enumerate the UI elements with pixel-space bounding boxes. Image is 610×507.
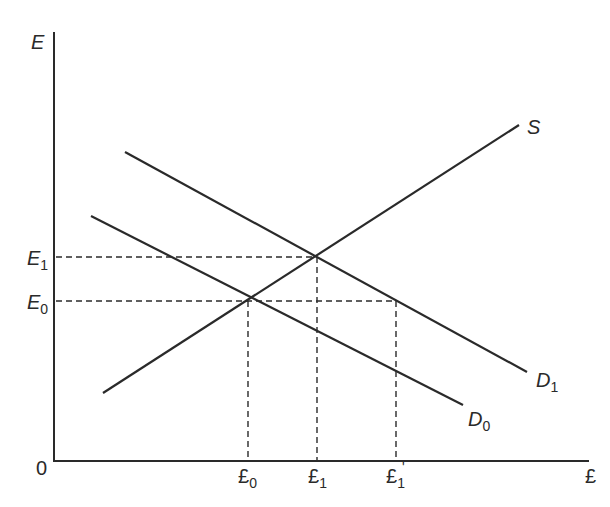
d1-label: D1 <box>536 370 558 390</box>
q1p-label-sub: 1 <box>397 475 405 491</box>
supply-curve <box>103 125 519 393</box>
q0-tick-label: £0 <box>238 466 257 486</box>
supply-label: S <box>527 117 540 137</box>
origin-label: 0 <box>36 458 47 478</box>
q1-label-main: £ <box>308 465 319 487</box>
supply-demand-diagram: E £ 0 S D1 D0 E1 E0 £0 £1 £1' <box>0 0 610 507</box>
q1-prime-tick-label: £1' <box>386 466 405 486</box>
e0-tick-label: E0 <box>27 292 48 312</box>
e1-tick-label: E1 <box>27 248 48 268</box>
x-axis-label: £ <box>585 466 596 486</box>
q1-tick-label: £1 <box>308 466 327 486</box>
e0-label-sub: 0 <box>40 301 48 317</box>
d1-label-sub: 1 <box>550 379 558 395</box>
e1-label-sub: 1 <box>40 257 48 273</box>
q1-label-sub: 1 <box>319 475 327 491</box>
q0-label-sub: 0 <box>249 475 257 491</box>
d0-label: D0 <box>468 409 490 429</box>
q1p-label-prime: ' <box>402 460 405 474</box>
diagram-canvas <box>0 0 610 507</box>
q1p-label-main: £ <box>386 465 397 487</box>
demand-curve-d0 <box>91 216 463 405</box>
e0-label-main: E <box>27 291 40 313</box>
d1-label-main: D <box>536 369 550 391</box>
y-axis-label: E <box>31 32 44 52</box>
d0-label-main: D <box>468 408 482 430</box>
e1-label-main: E <box>27 247 40 269</box>
q0-label-main: £ <box>238 465 249 487</box>
d0-label-sub: 0 <box>482 418 490 434</box>
